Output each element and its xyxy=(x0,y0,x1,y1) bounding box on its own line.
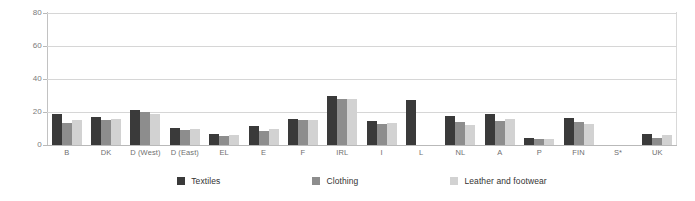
legend-swatch-icon xyxy=(450,177,458,185)
bar xyxy=(642,134,652,145)
bar xyxy=(259,131,269,145)
x-axis-label: IRL xyxy=(323,148,362,157)
bar xyxy=(584,124,594,145)
bar xyxy=(534,139,544,145)
y-tick-label-40: 40 xyxy=(2,75,42,83)
x-axis-label: A xyxy=(480,148,519,157)
bar xyxy=(465,125,475,145)
bar-group xyxy=(205,13,244,145)
legend-item[interactable]: Leather and footwear xyxy=(450,176,546,186)
bar xyxy=(387,123,397,145)
bar xyxy=(445,116,455,145)
bar-group xyxy=(441,13,480,145)
y-tick-label-80: 80 xyxy=(2,9,42,17)
bar xyxy=(662,135,672,145)
bar xyxy=(327,96,337,146)
bar xyxy=(574,122,584,145)
y-tick-label-60: 60 xyxy=(2,42,42,50)
x-axis-label: DK xyxy=(86,148,125,157)
bar xyxy=(564,118,574,145)
bar-group xyxy=(126,13,165,145)
bar xyxy=(524,138,534,145)
bar xyxy=(130,110,140,145)
y-tick-label-20: 20 xyxy=(2,108,42,116)
bar-group xyxy=(401,13,440,145)
bar-group xyxy=(638,13,677,145)
bar xyxy=(72,120,82,145)
bar xyxy=(229,135,239,145)
x-axis-label: F xyxy=(283,148,322,157)
bar xyxy=(455,122,465,145)
bar-groups xyxy=(47,13,677,145)
bar xyxy=(485,114,495,145)
bar xyxy=(249,126,259,145)
bar xyxy=(505,119,515,145)
bar-group xyxy=(480,13,519,145)
bar-group xyxy=(362,13,401,145)
x-axis-label: L xyxy=(401,148,440,157)
x-axis-label: FIN xyxy=(559,148,598,157)
x-axis-label: I xyxy=(362,148,401,157)
legend-item[interactable]: Textiles xyxy=(177,176,220,186)
x-axis-label: UK xyxy=(638,148,677,157)
bar-group xyxy=(47,13,86,145)
bar xyxy=(52,114,62,145)
bar-group xyxy=(323,13,362,145)
bar-group xyxy=(559,13,598,145)
legend-label: Leather and footwear xyxy=(464,176,546,186)
bar xyxy=(91,117,101,145)
bar-chart: 020406080 BDKD (West)D (East)ELEFIRLILNL… xyxy=(0,0,695,201)
bar xyxy=(337,99,347,145)
bar xyxy=(288,119,298,145)
x-axis-label: D (East) xyxy=(165,148,204,157)
bar xyxy=(180,130,190,145)
bar xyxy=(150,114,160,145)
bar xyxy=(298,120,308,145)
legend-item[interactable]: Clothing xyxy=(312,176,358,186)
legend-label: Clothing xyxy=(326,176,358,186)
bar-group xyxy=(86,13,125,145)
y-tick-label-0: 0 xyxy=(2,141,42,149)
bar xyxy=(367,121,377,145)
gridline-0 xyxy=(47,145,677,146)
bar xyxy=(495,121,505,145)
bar xyxy=(62,123,72,145)
bar xyxy=(652,138,662,145)
bar xyxy=(406,100,416,145)
x-axis-label: NL xyxy=(441,148,480,157)
bar xyxy=(269,129,279,145)
x-axis-label: B xyxy=(47,148,86,157)
x-axis-label: S* xyxy=(598,148,637,157)
bar-group xyxy=(165,13,204,145)
x-axis-labels: BDKD (West)D (East)ELEFIRLILNLAPFINS*UK xyxy=(47,148,677,157)
x-axis-label: E xyxy=(244,148,283,157)
chart-legend: TextilesClothingLeather and footwear xyxy=(47,176,677,186)
x-axis-label: D (West) xyxy=(126,148,165,157)
bar xyxy=(111,119,121,145)
legend-swatch-icon xyxy=(312,177,320,185)
legend-label: Textiles xyxy=(191,176,220,186)
bar xyxy=(140,112,150,145)
bar xyxy=(308,120,318,145)
bar xyxy=(347,99,357,145)
x-axis-label: EL xyxy=(205,148,244,157)
bar xyxy=(219,136,229,145)
bar xyxy=(190,129,200,145)
bar-group xyxy=(244,13,283,145)
bar xyxy=(170,128,180,145)
bar xyxy=(209,134,219,145)
bar-group xyxy=(283,13,322,145)
bar-group xyxy=(520,13,559,145)
bar-group xyxy=(598,13,637,145)
legend-swatch-icon xyxy=(177,177,185,185)
bar xyxy=(544,139,554,145)
bar xyxy=(101,120,111,145)
x-axis-label: P xyxy=(520,148,559,157)
bar xyxy=(377,124,387,145)
y-tick-mark-0 xyxy=(43,145,47,146)
